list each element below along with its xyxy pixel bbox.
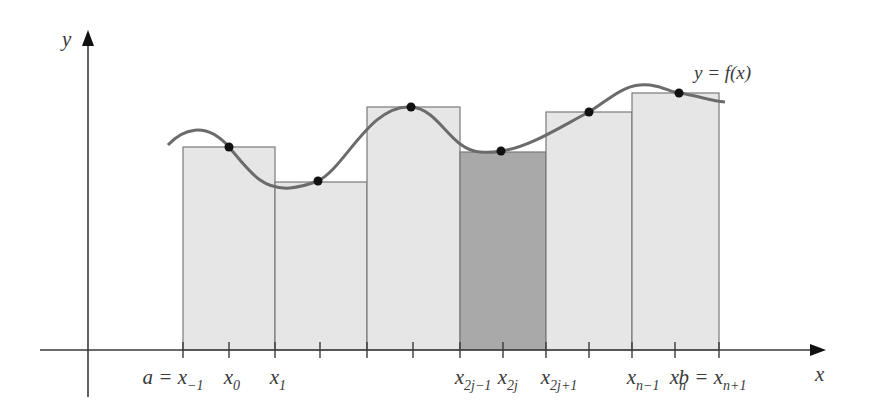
- tick-label: a = x−1: [143, 365, 204, 393]
- highlighted-rectangle: [460, 152, 546, 350]
- x-axis-arrow-icon: [810, 344, 826, 356]
- tick-label: xn−1: [626, 365, 660, 393]
- tick-label: x2j−1: [454, 365, 492, 393]
- midpoint-dot: [225, 143, 234, 152]
- midpoint-dot: [675, 89, 684, 98]
- midpoint-dot: [407, 103, 416, 112]
- midpoint-rectangles: [183, 93, 719, 350]
- rectangle: [367, 107, 460, 350]
- rectangle: [183, 147, 275, 350]
- riemann-sum-diagram: a = x−1x0x1x2j−1x2jx2j+1xn−1xnb = xn+1 y…: [0, 0, 872, 419]
- y-axis-label: y: [60, 27, 72, 51]
- tick-label: x0: [223, 365, 240, 393]
- x-axis-label: x: [814, 362, 825, 386]
- rectangle: [546, 112, 632, 350]
- tick-labels: a = x−1x0x1x2j−1x2jx2j+1xn−1xnb = xn+1: [143, 365, 747, 393]
- y-axis-arrow-icon: [82, 30, 94, 46]
- midpoint-dot: [585, 108, 594, 117]
- rectangle: [632, 93, 719, 350]
- midpoint-dot: [314, 177, 323, 186]
- tick-label: b = xn+1: [679, 365, 747, 393]
- tick-label: x2j: [497, 365, 518, 393]
- rectangle: [275, 182, 367, 350]
- curve-label: y = f(x): [692, 62, 751, 84]
- tick-label: x1: [269, 365, 286, 393]
- tick-label: x2j+1: [540, 365, 578, 393]
- midpoint-dot: [497, 147, 506, 156]
